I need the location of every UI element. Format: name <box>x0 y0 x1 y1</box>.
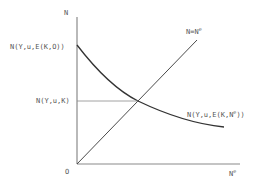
line-label-base: N=N <box>186 28 199 36</box>
diagram: N Ne O N=Ne N(Y,u,E(K,O)) N(Y,u,K) N(Y,u… <box>0 0 266 184</box>
forty-five-line <box>77 40 197 164</box>
x-axis-label: Ne <box>229 168 236 178</box>
equilibrium-label: N(Y,u,K) <box>36 97 70 105</box>
line-label-sup: e <box>199 26 202 32</box>
line-label: N=Ne <box>186 26 202 36</box>
curve-end-label-base: N(Y,u,E(K,N <box>187 111 233 119</box>
curve-end-label-tail: )) <box>236 111 244 119</box>
curve-end-label: N(Y,u,E(K,Ne)) <box>187 109 245 119</box>
y-axis-label: N <box>64 9 68 17</box>
origin-label: O <box>65 168 69 176</box>
curve-start-label: N(Y,u,E(K,O)) <box>10 43 65 51</box>
x-axis-label-sup: e <box>233 168 236 174</box>
